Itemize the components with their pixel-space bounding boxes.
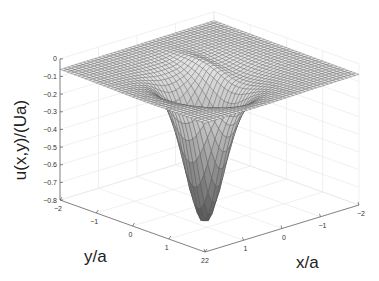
x-axis-label: x/a xyxy=(296,253,319,272)
tick-label: −1 xyxy=(90,218,98,225)
tick-label: −0.7 xyxy=(43,179,57,186)
tick-label: −1 xyxy=(319,222,327,229)
tick-label: −0.6 xyxy=(43,161,57,168)
tick-label: −0.5 xyxy=(43,144,57,151)
tick-label: −2 xyxy=(54,205,62,212)
tick-label: −0.8 xyxy=(43,197,57,204)
tick-label: 0 xyxy=(53,55,57,62)
tick-label: 1 xyxy=(165,244,169,251)
tick-label: 0 xyxy=(282,234,286,241)
tick-label: 2 xyxy=(205,257,209,264)
tick-label: −0.2 xyxy=(43,91,57,98)
surface-plot: 0−0.1−0.2−0.3−0.4−0.5−0.6−0.7−0.8−2−1012… xyxy=(0,0,379,281)
tick-label: −2 xyxy=(357,210,365,217)
tick-label: −0.1 xyxy=(43,73,57,80)
tick-label: 0 xyxy=(129,231,133,238)
tick-label: −0.3 xyxy=(43,108,57,115)
tick-label: −0.4 xyxy=(43,126,57,133)
y-axis-label: y/a xyxy=(84,247,107,266)
z-axis-label: u(x,y)/(Ua) xyxy=(11,100,30,180)
tick-label: 1 xyxy=(244,245,248,252)
